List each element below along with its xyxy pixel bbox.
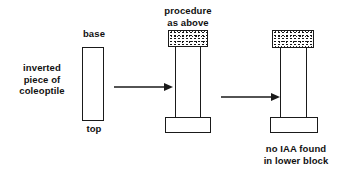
coleoptile-iaa-diagram: base inverted piece of coleoptile top pr… bbox=[0, 0, 357, 173]
right-panel-lower-agar-block bbox=[270, 117, 318, 133]
right-panel-upper-agar-block bbox=[272, 30, 314, 48]
arrow-1-icon bbox=[114, 80, 174, 94]
middle-panel-upper-agar-block bbox=[168, 30, 208, 47]
right-panel-stem-right bbox=[306, 47, 307, 118]
right-panel-result-label: no IAA found in lower block bbox=[250, 143, 342, 166]
left-panel-side-label: inverted piece of coleoptile bbox=[6, 62, 78, 97]
arrow-2-icon bbox=[221, 90, 281, 104]
middle-panel-stem-left bbox=[175, 46, 176, 119]
middle-panel-lower-agar-block bbox=[165, 117, 211, 133]
left-panel-top-label: top bbox=[72, 123, 116, 135]
inverted-coleoptile-segment bbox=[82, 47, 104, 121]
middle-panel-stem-right bbox=[200, 46, 201, 119]
right-panel-stem-left bbox=[280, 47, 281, 118]
left-panel-base-label: base bbox=[72, 28, 116, 40]
middle-panel-procedure-label: procedure as above bbox=[148, 5, 228, 28]
